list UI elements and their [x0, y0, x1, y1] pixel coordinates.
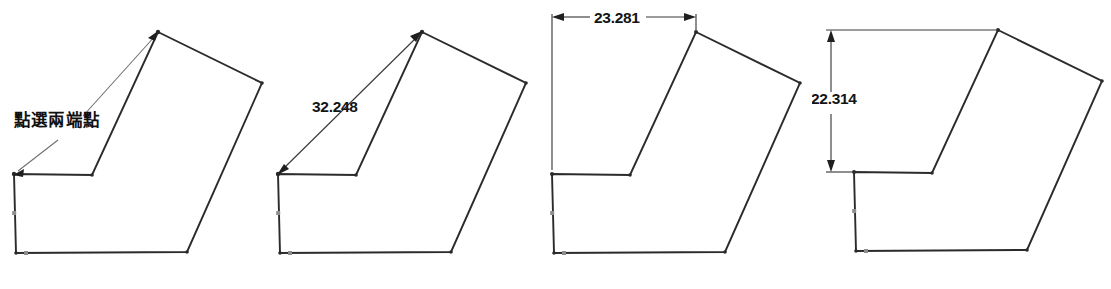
- panel-4-graphic: 22.314: [812, 0, 1111, 289]
- vertex-dot-bottom-right: [185, 250, 189, 254]
- vertical-dimension-label: 22.314: [812, 90, 857, 107]
- panel-vertical-dimension: 22.314: [812, 0, 1111, 289]
- leader-arrow-top: [148, 31, 158, 41]
- vertex-dot-left-upper: [852, 170, 856, 174]
- edge-midpoint-tick-left: [276, 211, 280, 215]
- vertex-dot-top: [694, 30, 698, 34]
- polygon-outline: [14, 32, 262, 253]
- vertex-dot-notch: [628, 173, 632, 177]
- vertex-dot-bottom-right: [1025, 248, 1029, 252]
- vertex-dot-right: [524, 81, 528, 85]
- edge-midpoint-tick-bottom: [24, 251, 28, 255]
- leader-line-to-left-vertex: [18, 140, 58, 171]
- vertex-dot-notch: [354, 173, 358, 177]
- vertex-dot-bottom-left: [552, 251, 556, 255]
- edge-midpoint-tick-left: [852, 209, 856, 213]
- vertical-arrow-top: [827, 30, 835, 42]
- panel-2-graphic: 32.248: [264, 0, 540, 289]
- panel-3-graphic: 23.281: [538, 0, 814, 289]
- technical-drawing-canvas: 點選兩端點 32.248: [0, 0, 1111, 289]
- polygon-outline: [854, 30, 1102, 251]
- edge-midpoint-tick-bottom: [288, 251, 292, 255]
- panel-1-graphic: 點選兩端點: [0, 0, 272, 289]
- vertex-dot-left-upper: [550, 172, 554, 176]
- edge-midpoint-tick-left: [12, 211, 16, 215]
- vertex-dot-notch: [930, 171, 934, 175]
- horizontal-arrow-left: [552, 13, 564, 21]
- vertex-dot-bottom-left: [278, 251, 282, 255]
- panel-select-endpoints: 點選兩端點: [0, 0, 272, 289]
- polygon-outline: [552, 32, 800, 253]
- leader-line-to-top-vertex: [83, 35, 156, 116]
- edge-midpoint-tick-left: [550, 211, 554, 215]
- vertex-dot-bottom-right: [449, 250, 453, 254]
- edge-midpoint-tick-bottom: [864, 249, 868, 253]
- vertex-dot-right: [798, 81, 802, 85]
- vertex-dot-bottom-right: [723, 250, 727, 254]
- vertex-dot-bottom-left: [854, 249, 858, 253]
- instruction-label: 點選兩端點: [14, 110, 100, 130]
- edge-midpoint-tick-bottom: [562, 251, 566, 255]
- horizontal-arrow-right: [684, 13, 696, 21]
- polygon-outline: [278, 32, 526, 253]
- vertex-dot-bottom-left: [14, 251, 18, 255]
- diagonal-dimension-label: 32.248: [312, 98, 358, 115]
- panel-diagonal-dimension: 32.248: [264, 0, 540, 289]
- vertex-dot-top: [996, 28, 1000, 32]
- panel-horizontal-dimension: 23.281: [538, 0, 814, 289]
- horizontal-dimension-label: 23.281: [594, 9, 640, 26]
- vertex-dot-right: [1100, 79, 1104, 83]
- vertex-dot-notch: [90, 173, 94, 177]
- vertical-arrow-bottom: [827, 160, 835, 172]
